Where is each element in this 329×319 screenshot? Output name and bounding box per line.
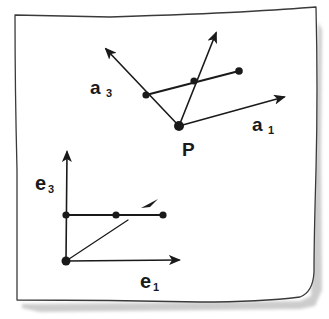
e1-vector-arrow xyxy=(66,260,179,261)
point-end-lower xyxy=(159,211,166,218)
point-middle-lower xyxy=(112,211,119,218)
point-on-e3 xyxy=(62,211,69,218)
label-a1-subscript: 1 xyxy=(268,124,274,136)
label-p: P xyxy=(182,139,195,160)
label-e3-subscript: 3 xyxy=(48,183,54,195)
e3-vector-arrow xyxy=(66,152,67,261)
point-middle xyxy=(190,77,197,84)
label-a3-letter: a xyxy=(90,77,101,98)
diagram-canvas: a 3 a 1 P e 3 e 1 xyxy=(0,0,329,319)
label-a3-subscript: 3 xyxy=(106,87,112,99)
label-e1-subscript: 1 xyxy=(153,281,159,293)
label-a1-letter: a xyxy=(252,114,263,135)
label-e1-letter: e xyxy=(140,270,151,292)
label-e3-letter: e xyxy=(35,172,46,194)
point-p xyxy=(174,121,184,131)
point-on-a3 xyxy=(142,91,149,98)
point-end xyxy=(235,67,243,75)
paper-sheet xyxy=(15,7,317,302)
point-origin xyxy=(62,257,71,266)
